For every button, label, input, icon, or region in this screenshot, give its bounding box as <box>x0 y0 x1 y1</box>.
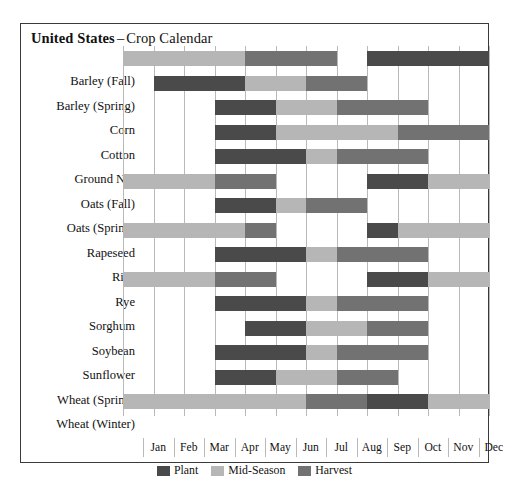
bar-segment-harvest <box>337 100 429 115</box>
crop-row <box>123 370 489 385</box>
crop-row <box>123 76 489 91</box>
bar-segment-harvest <box>367 321 428 336</box>
bar-segment-plant <box>215 125 276 140</box>
bar-segment-harvest <box>337 149 429 164</box>
crop-row <box>123 125 489 140</box>
month-separator <box>418 438 419 457</box>
crop-label: Corn <box>17 123 135 138</box>
title-dash: – <box>115 30 126 46</box>
month-separator <box>326 438 327 457</box>
bar-segment-plant <box>367 272 428 287</box>
bar-segment-plant <box>215 345 307 360</box>
page-title: United States–Crop Calendar <box>31 30 213 47</box>
crop-row <box>123 174 489 189</box>
legend-swatch-plant-icon <box>157 466 170 476</box>
month-label-aug: Aug <box>357 440 388 456</box>
legend-item-harvest[interactable]: Harvest <box>298 463 352 478</box>
bar-segment-mid <box>306 321 367 336</box>
crop-label: Wheat (Winter) <box>17 417 135 432</box>
bar-segment-plant <box>245 321 306 336</box>
crop-label: Rice <box>17 270 135 285</box>
month-separator <box>479 438 480 457</box>
month-label-jul: Jul <box>326 440 357 456</box>
bar-segment-mid <box>276 100 337 115</box>
crop-label: Sorghum <box>17 319 135 334</box>
month-separator <box>357 438 358 457</box>
month-label-sep: Sep <box>387 440 418 456</box>
month-separator <box>204 438 205 457</box>
month-label-nov: Nov <box>448 440 479 456</box>
crop-row <box>123 149 489 164</box>
bar-segment-plant <box>215 370 276 385</box>
bar-segment-harvest <box>245 223 276 238</box>
bar-segment-plant <box>215 100 276 115</box>
crop-row <box>123 321 489 336</box>
month-label-jun: Jun <box>296 440 327 456</box>
bar-segment-harvest <box>215 174 276 189</box>
bar-segment-harvest <box>306 76 367 91</box>
legend: PlantMid-SeasonHarvest <box>21 463 488 478</box>
crop-row <box>123 394 489 409</box>
month-label-jan: Jan <box>143 440 174 456</box>
bar-segment-harvest <box>337 370 398 385</box>
crop-label: Oats (Fall) <box>17 197 135 212</box>
bar-segment-plant <box>154 76 246 91</box>
bar-segment-mid <box>306 296 337 311</box>
legend-item-plant[interactable]: Plant <box>157 463 198 478</box>
crop-row <box>123 296 489 311</box>
bar-segment-mid <box>276 370 337 385</box>
crop-label: Barley (Fall) <box>17 74 135 89</box>
crop-label-column: Barley (Fall)Barley (Spring)CornCottonGr… <box>21 69 139 439</box>
month-separator <box>387 438 388 457</box>
crop-label: Cotton <box>17 148 135 163</box>
bar-segment-plant <box>367 223 398 238</box>
bar-segment-plant <box>367 174 428 189</box>
bar-segment-plant <box>367 394 428 409</box>
bar-segment-plant <box>215 198 276 213</box>
month-label-may: May <box>265 440 296 456</box>
crop-row <box>123 223 489 238</box>
month-separator <box>296 438 297 457</box>
crop-label: Rapeseed <box>17 246 135 261</box>
bar-segment-mid <box>123 174 215 189</box>
bar-segment-harvest <box>337 345 429 360</box>
bar-segment-plant <box>215 149 307 164</box>
bar-segment-mid <box>428 394 489 409</box>
bar-segment-plant <box>215 296 307 311</box>
gridline-Dec <box>489 46 490 416</box>
legend-swatch-harvest-icon <box>298 466 311 476</box>
bar-segment-mid <box>398 223 490 238</box>
crop-label: Barley (Spring) <box>17 99 135 114</box>
month-separator <box>143 438 144 457</box>
crop-bar-rows <box>123 46 489 416</box>
month-separator <box>174 438 175 457</box>
bar-segment-mid <box>428 272 489 287</box>
month-separator <box>235 438 236 457</box>
crop-row <box>123 345 489 360</box>
crop-label: Wheat (Spring) <box>17 393 135 408</box>
month-separator <box>448 438 449 457</box>
figure-frame: United States–Crop Calendar Barley (Fall… <box>20 23 489 463</box>
month-axis: JanFebMarAprMayJunJulAugSepOctNovDec <box>143 440 509 460</box>
legend-label: Plant <box>174 463 198 478</box>
crop-row <box>123 51 489 66</box>
crop-label: Sunflower <box>17 368 135 383</box>
bar-segment-harvest <box>306 198 367 213</box>
bar-segment-harvest <box>306 394 367 409</box>
bar-segment-harvest <box>215 272 276 287</box>
crop-calendar-figure: United States–Crop Calendar Barley (Fall… <box>0 0 509 486</box>
crop-label: Ground Nut <box>17 172 135 187</box>
bar-segment-mid <box>245 76 306 91</box>
bar-segment-harvest <box>245 51 337 66</box>
bar-segment-mid <box>428 174 489 189</box>
bar-segment-harvest <box>337 247 429 262</box>
title-country: United States <box>31 30 115 46</box>
crop-label: Rye <box>17 295 135 310</box>
crop-row <box>123 100 489 115</box>
bar-segment-harvest <box>337 296 429 311</box>
bar-segment-mid <box>306 345 337 360</box>
legend-item-mid[interactable]: Mid-Season <box>211 463 285 478</box>
title-subtitle: Crop Calendar <box>126 30 212 46</box>
bar-segment-mid <box>276 125 398 140</box>
bar-segment-mid <box>306 247 337 262</box>
